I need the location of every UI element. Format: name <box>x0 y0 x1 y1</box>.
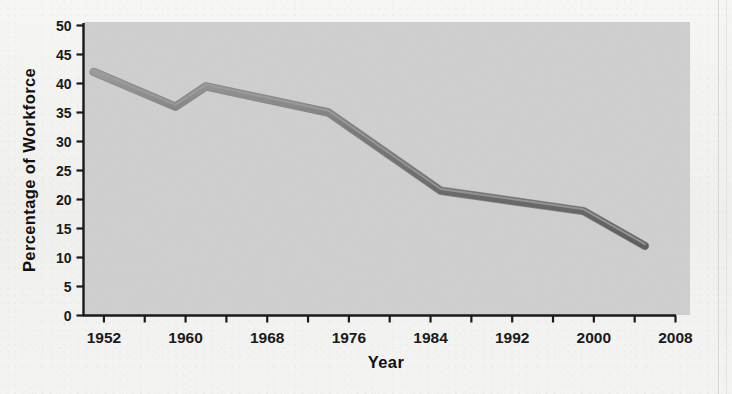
x-axis-tick-label: 2000 <box>577 329 611 346</box>
x-axis-tick-label: 1992 <box>495 329 529 346</box>
y-axis-tick-label: 40 <box>56 76 72 92</box>
y-axis-tick-label: 15 <box>56 221 72 237</box>
y-axis-tick-label: 10 <box>56 250 72 266</box>
y-axis-tick-label: 0 <box>64 308 72 324</box>
x-axis-tick-label: 1952 <box>87 329 121 346</box>
x-axis-title: Year <box>368 353 405 371</box>
y-axis-tick-label: 5 <box>64 279 72 295</box>
y-axis-tick-label: 25 <box>56 163 72 179</box>
x-axis-tick-label: 1960 <box>168 329 202 346</box>
y-axis-tick-label: 50 <box>56 18 72 34</box>
plot-area <box>84 22 690 315</box>
y-axis-tick-label: 30 <box>56 134 72 150</box>
x-axis-tick-label: 1984 <box>413 329 448 346</box>
x-axis-tick-label: 1968 <box>250 329 285 346</box>
x-axis-tick-labels: 19521960196819761984199220002008 <box>87 329 693 346</box>
y-axis-tick-label: 20 <box>56 192 72 208</box>
y-axis-tick-labels: 05101520253035404550 <box>56 18 72 324</box>
y-axis-tick-label: 45 <box>56 47 72 63</box>
y-axis-tick-label: 35 <box>56 105 72 121</box>
x-axis-tick-label: 1976 <box>332 329 367 346</box>
x-axis-tick-label: 2008 <box>658 329 693 346</box>
line-chart: 05101520253035404550 1952196019681976198… <box>0 0 732 394</box>
y-axis-title: Percentage of Workforce <box>20 68 38 272</box>
